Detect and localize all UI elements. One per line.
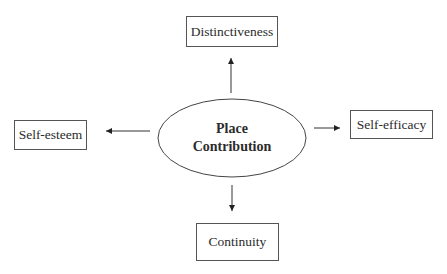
- center-line-2: Contribution: [172, 138, 292, 156]
- node-continuity: Continuity: [196, 223, 279, 261]
- center-line-1: Place: [172, 120, 292, 138]
- node-self-efficacy: Self-efficacy: [350, 110, 433, 139]
- node-distinctiveness: Distinctiveness: [186, 16, 278, 47]
- node-self-esteem: Self-esteem: [14, 120, 87, 150]
- center-node-label: Place Contribution: [172, 120, 292, 156]
